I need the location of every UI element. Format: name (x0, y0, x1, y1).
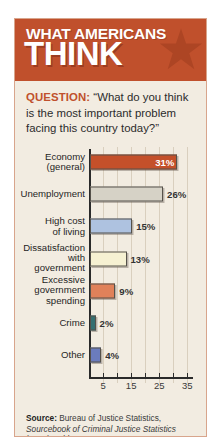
bar-row: Excessivegovernmentspending9% (15, 278, 207, 304)
axis-tick (159, 373, 160, 377)
source-italic: Sourcebook of Criminal Justice Statistic… (26, 424, 176, 434)
bar-chart: 5152535 Economy(general)31%Unemployment2… (15, 147, 207, 397)
bar-row: Unemployment26% (15, 181, 207, 207)
axis-tick (187, 373, 188, 377)
source-line-2: (2015), Table 2.1.2012. (26, 434, 111, 437)
source-label: Source: (26, 413, 57, 423)
bar (90, 187, 163, 202)
bar-value-label: 31% (155, 157, 174, 168)
bar-value-label: 4% (105, 350, 119, 361)
question-label: QUESTION: (26, 91, 90, 103)
x-axis-line (89, 377, 193, 379)
bar-value-label: 9% (119, 285, 133, 296)
axis-tick-label: 15 (126, 380, 137, 391)
bar (90, 219, 132, 234)
header-banner: WHAT AMERICANS THINK (15, 19, 206, 81)
axis-tick-label: 25 (154, 380, 165, 391)
axis-tick (145, 373, 146, 377)
bar-row-label: Excessivegovernmentspending (15, 275, 85, 306)
bar-row-label: Dissatisfactionwithgovernment (15, 243, 85, 274)
axis-tick-label: 35 (182, 380, 193, 391)
bar-row-label: Economy(general) (15, 152, 85, 173)
axis-tick (103, 373, 104, 377)
axis-tick (117, 373, 118, 377)
bar-value-label: 2% (100, 318, 114, 329)
axis-tick (131, 373, 132, 377)
question-block: QUESTION: “What do you think is the most… (15, 81, 206, 137)
bar-row-label: Other (15, 350, 85, 360)
bar (90, 251, 127, 266)
axis-tick-label: 5 (100, 380, 105, 391)
bar-row: Economy(general)31% (15, 149, 207, 175)
infographic-card: WHAT AMERICANS THINK QUESTION: “What do … (14, 18, 207, 437)
bar (90, 283, 115, 298)
bar-row: High costof living15% (15, 213, 207, 239)
bar-row: Dissatisfactionwithgovernment13% (15, 246, 207, 272)
bar-row-label: Unemployment (15, 189, 85, 199)
bar-row: Other4% (15, 342, 207, 368)
header-line-2: THINK (24, 37, 122, 70)
bar-row-label: Crime (15, 318, 85, 328)
source-note: Source: Bureau of Justice Statistics, So… (26, 413, 198, 437)
bar-value-label: 13% (131, 253, 150, 264)
axis-tick (173, 373, 174, 377)
bar (90, 316, 96, 331)
bar-value-label: 26% (167, 189, 186, 200)
source-line-1: Bureau of Justice Statistics, (57, 413, 161, 423)
bar (90, 348, 101, 363)
bar-row-label: High costof living (15, 216, 85, 237)
bar-row: Crime2% (15, 310, 207, 336)
bar-value-label: 15% (136, 221, 155, 232)
